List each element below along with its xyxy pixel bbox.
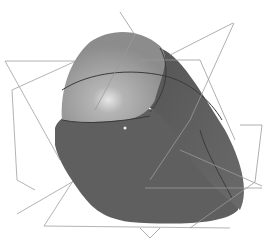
highlight-point xyxy=(124,127,127,130)
surface-upper-light xyxy=(62,32,165,122)
cad-viewport xyxy=(0,0,279,244)
model-render xyxy=(0,0,279,244)
